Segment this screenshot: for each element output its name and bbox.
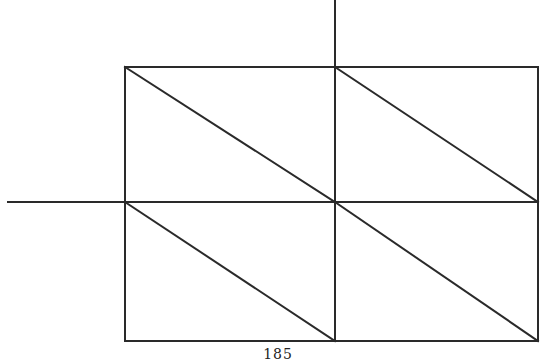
cell-bottom-right-diagonal bbox=[335, 202, 538, 341]
cell-bottom-left-diagonal bbox=[125, 202, 335, 341]
page-number: 185 bbox=[0, 347, 546, 361]
cell-top-left-diagonal bbox=[125, 67, 335, 202]
cell-top-right-diagonal bbox=[335, 67, 538, 202]
